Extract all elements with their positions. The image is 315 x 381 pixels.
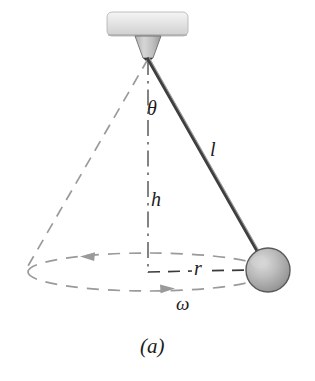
figure-caption: (a) xyxy=(140,336,165,357)
cone-slant-dashed xyxy=(28,59,148,266)
ceiling-plate xyxy=(107,12,188,36)
angular-velocity-label: ω xyxy=(176,294,189,313)
length-label: l xyxy=(210,139,216,159)
pendulum-rod xyxy=(148,59,269,270)
radius-label: r xyxy=(194,258,202,278)
orbit-arrow-bottom-icon xyxy=(160,285,175,294)
angle-label: θ xyxy=(147,98,157,118)
pendulum-bob xyxy=(246,248,290,292)
radius-line xyxy=(148,266,262,274)
height-label: h xyxy=(151,189,161,209)
orbit-arrow-top-icon xyxy=(80,252,95,261)
conical-pendulum-figure: θ l h r ω (a) xyxy=(0,0,315,381)
